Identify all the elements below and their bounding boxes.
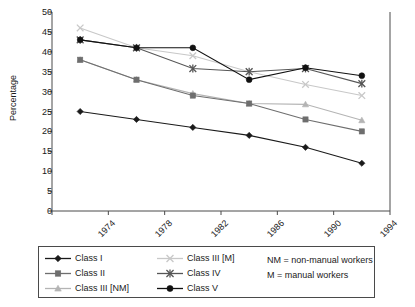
marker-square <box>78 57 83 62</box>
marker-square <box>55 271 60 276</box>
marker-circle <box>167 285 173 291</box>
y-tick-label: 35 <box>32 67 52 77</box>
legend-notes: NM = non-manual workers M = manual worke… <box>267 253 376 283</box>
legend-item: Class IV <box>157 266 235 281</box>
marker-diamond <box>359 160 365 166</box>
legend-item: Class II <box>45 266 129 281</box>
legend-column-2: Class III [M]Class IVClass V <box>157 251 235 296</box>
legend-item: Class I <box>45 251 129 266</box>
marker-diamond <box>77 108 83 114</box>
marker-circle <box>190 45 196 51</box>
y-axis-title: Percentage <box>8 58 18 138</box>
legend-item-label: Class I <box>75 254 103 263</box>
marker-square <box>190 93 195 98</box>
series-class-v <box>77 37 364 83</box>
legend-item-label: Class IV <box>187 269 221 278</box>
marker-diamond <box>302 144 308 150</box>
y-tick-label: 20 <box>32 126 52 136</box>
marker-circle <box>303 65 309 71</box>
marker-circle <box>359 73 365 79</box>
marker-diamond <box>133 116 139 122</box>
legend-swatch-cross <box>157 253 183 264</box>
legend-swatch-asterisk <box>157 268 183 279</box>
series-line <box>80 112 362 164</box>
marker-square <box>247 101 252 106</box>
marker-diamond <box>55 255 62 262</box>
marker-square <box>303 117 308 122</box>
y-tick-label: 15 <box>32 146 52 156</box>
line-chart: Percentage 05101520253035404550 19741978… <box>0 0 415 307</box>
legend-column-1: Class IClass IIClass III [NM] <box>45 251 129 296</box>
legend-item: Class III [M] <box>157 251 235 266</box>
series-class-ii <box>78 57 365 134</box>
legend-swatch-square <box>45 268 71 279</box>
legend-swatch-triangle <box>45 283 71 294</box>
series-class-iii-nm <box>77 57 365 123</box>
marker-diamond <box>190 124 196 130</box>
series-class-iii-m <box>77 25 365 99</box>
marker-circle <box>134 45 140 51</box>
chart-legend: Class IClass IIClass III [NM] Class III … <box>38 246 375 298</box>
legend-item-label: Class II <box>75 269 105 278</box>
legend-swatch-circle <box>157 283 183 294</box>
marker-cross <box>77 25 84 32</box>
legend-note-nm: NM = non-manual workers <box>267 253 376 268</box>
series-line <box>80 40 362 84</box>
marker-circle <box>77 37 83 43</box>
series-class-i <box>77 108 365 166</box>
legend-item: Class V <box>157 281 235 296</box>
y-tick-label: 10 <box>32 166 52 176</box>
marker-circle <box>246 77 252 83</box>
y-tick-label: 30 <box>32 87 52 97</box>
y-tick-label: 25 <box>32 107 52 117</box>
y-tick-label: 40 <box>32 47 52 57</box>
marker-asterisk <box>358 80 365 88</box>
legend-item-label: Class III [M] <box>187 254 235 263</box>
legend-item: Class III [NM] <box>45 281 129 296</box>
legend-item-label: Class V <box>187 284 218 293</box>
legend-swatch-diamond <box>45 253 71 264</box>
series-line <box>80 40 362 80</box>
y-axis-tick-labels: 05101520253035404550 <box>28 0 52 230</box>
series-line <box>80 28 362 96</box>
marker-diamond <box>246 132 252 138</box>
y-tick-label: 0 <box>32 206 52 216</box>
y-tick-label: 50 <box>32 7 52 17</box>
series-class-iv <box>77 36 365 88</box>
legend-note-m: M = manual workers <box>267 268 376 283</box>
marker-square <box>359 129 364 134</box>
y-tick-label: 45 <box>32 27 52 37</box>
y-tick-label: 5 <box>32 186 52 196</box>
marker-square <box>134 77 139 82</box>
legend-item-label: Class III [NM] <box>75 284 129 293</box>
series-line <box>80 60 362 120</box>
